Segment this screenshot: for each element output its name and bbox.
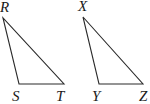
- diagram-canvas: R S T X Y Z: [0, 0, 150, 104]
- vertex-label-s: S: [12, 88, 20, 104]
- vertex-label-y: Y: [92, 88, 102, 104]
- triangle-rst: [3, 18, 64, 84]
- vertex-label-r: R: [0, 0, 9, 15]
- triangle-xyz: [83, 17, 143, 84]
- vertex-label-x: X: [77, 0, 88, 14]
- vertex-label-z: Z: [139, 88, 148, 104]
- vertex-label-t: T: [56, 88, 66, 104]
